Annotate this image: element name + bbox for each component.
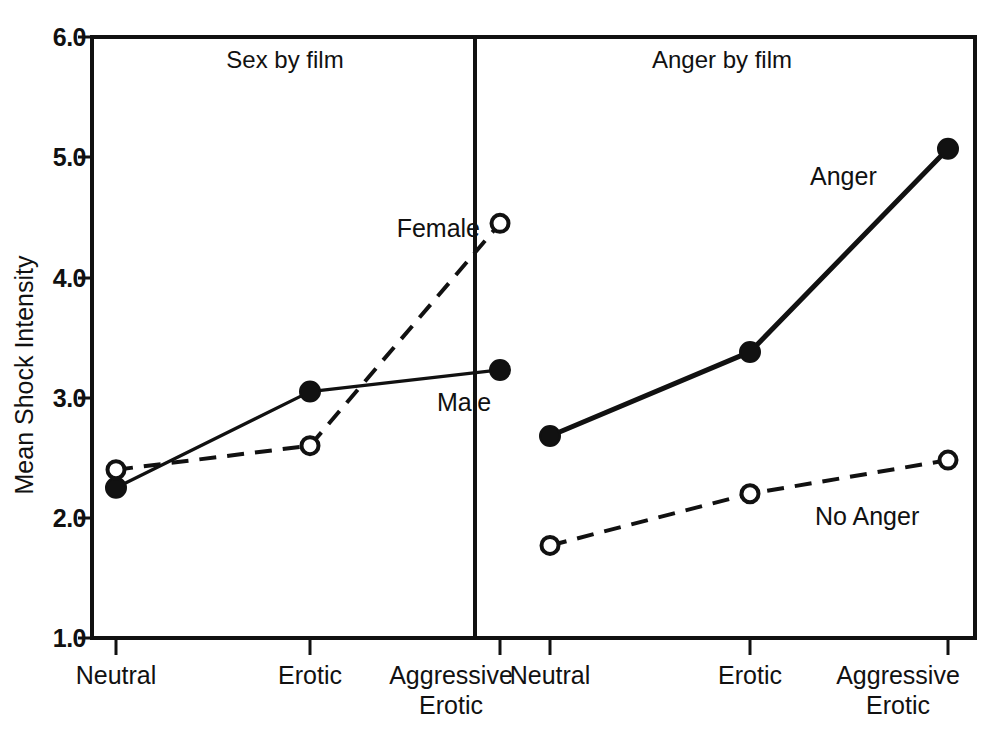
- x-tick-label: Aggressive: [836, 661, 960, 689]
- series-line-female: [116, 223, 500, 469]
- data-point: [740, 342, 760, 362]
- x-tick-label: Neutral: [510, 661, 591, 689]
- x-tick-label: Aggressive: [389, 661, 513, 689]
- x-tick-label: Erotic: [278, 661, 342, 689]
- shock-intensity-line-chart: Mean Shock Intensity 6.0 5.0 4.0 3.0 2.0…: [0, 0, 1000, 741]
- data-point: [490, 360, 510, 380]
- data-point: [302, 437, 319, 454]
- panel-title-sex-by-film: Sex by film: [226, 46, 343, 73]
- data-point: [940, 452, 957, 469]
- x-tick-label: Neutral: [76, 661, 157, 689]
- y-axis-title: Mean Shock Intensity: [10, 255, 38, 495]
- x-axis-ticks: [116, 638, 948, 655]
- x-axis-labels-right-panel: Neutral Erotic Aggressive Erotic: [510, 661, 960, 719]
- plot-frame: [92, 37, 975, 638]
- data-point: [938, 139, 958, 159]
- series-label-male: Male: [437, 388, 491, 416]
- series-label-female: Female: [397, 214, 480, 242]
- panel-title-anger-by-film: Anger by film: [652, 46, 792, 73]
- y-axis-ticks: [78, 37, 92, 638]
- series-label-no-anger: No Anger: [815, 502, 919, 530]
- x-axis-labels-left-panel: Sex by film Neutral Erotic Aggressive Er…: [76, 661, 513, 719]
- series-layer: [106, 139, 958, 554]
- figure-container: Mean Shock Intensity 6.0 5.0 4.0 3.0 2.0…: [0, 0, 1000, 741]
- data-point: [106, 478, 126, 498]
- x-tick-label: Erotic: [718, 661, 782, 689]
- data-point: [742, 485, 759, 502]
- data-point: [492, 215, 509, 232]
- data-point: [300, 382, 320, 402]
- series-label-anger: Anger: [810, 162, 877, 190]
- series-line-anger: [550, 149, 948, 436]
- x-tick-label-second-line: Erotic: [419, 691, 483, 719]
- data-point: [108, 461, 125, 478]
- x-tick-label-second-line: Erotic: [866, 691, 930, 719]
- y-axis-tick-labels: 6.0 5.0 4.0 3.0 2.0 1.0: [53, 23, 86, 652]
- data-point: [542, 537, 559, 554]
- data-point: [540, 426, 560, 446]
